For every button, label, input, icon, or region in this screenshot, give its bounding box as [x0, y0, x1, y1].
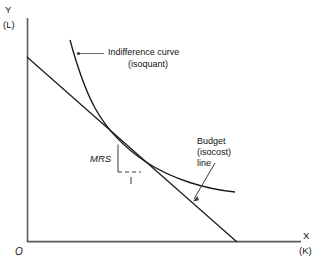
budget-line-annotation-line2: (isocost)	[197, 147, 231, 158]
origin-label: O	[15, 246, 23, 257]
indifference-leader-dot	[77, 52, 80, 55]
budget-line-annotation-line3: line	[197, 158, 211, 169]
economics-diagram: Y (L) X (K) O Indifference curve (isoqua…	[0, 0, 319, 274]
indifference-curve-annotation-line1: Indifference curve	[108, 47, 179, 58]
y-axis-label: Y	[5, 4, 11, 15]
x-axis-unit-label: (K)	[299, 245, 312, 256]
indifference-curve-annotation-line2: (isoquant)	[128, 59, 168, 70]
x-axis-label: X	[303, 230, 309, 241]
y-axis-unit-label: (L)	[3, 19, 15, 30]
diagram-canvas	[0, 0, 319, 274]
budget-line-annotation-line1: Budget	[197, 136, 226, 147]
mrs-label: MRS	[90, 153, 111, 164]
